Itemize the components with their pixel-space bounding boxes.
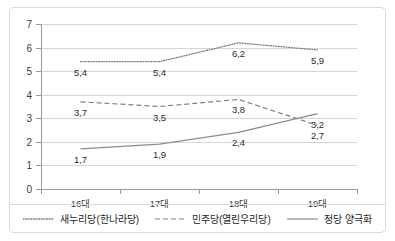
legend-item[interactable]: 정당 양극화 xyxy=(287,211,372,226)
y-axis-tick-label: 6 xyxy=(18,42,32,53)
y-axis-tick-label: 5 xyxy=(18,66,32,77)
y-axis-tick-label: 4 xyxy=(18,89,32,100)
data-point-label: 6,2 xyxy=(232,48,245,59)
legend-swatch-solid-icon xyxy=(287,215,318,223)
series-line xyxy=(81,43,318,62)
data-point-label: 3,2 xyxy=(311,119,324,130)
series-line xyxy=(81,114,318,149)
y-axis-tick-label: 7 xyxy=(18,19,32,30)
chart-container: 76543210 16대17대18대19대 5,45,46,25,93,73,5… xyxy=(0,0,395,241)
data-point-label: 2,7 xyxy=(311,130,324,141)
y-axis-tick-label: 3 xyxy=(18,113,32,124)
legend-label: 새누리당(한나라당) xyxy=(60,211,139,226)
series-lines xyxy=(41,24,357,190)
data-point-label: 1,9 xyxy=(153,149,166,160)
data-point-label: 3,8 xyxy=(232,104,245,115)
y-axis-tick-label: 2 xyxy=(18,136,32,147)
legend-label: 정당 양극화 xyxy=(324,211,372,226)
y-axis-tick-label: 0 xyxy=(18,184,32,195)
data-point-label: 3,5 xyxy=(153,112,166,123)
data-point-label: 2,4 xyxy=(232,137,245,148)
legend-swatch-dashed-icon xyxy=(155,215,186,223)
data-point-label: 5,4 xyxy=(74,67,87,78)
data-point-label: 5,9 xyxy=(311,55,324,66)
data-point-label: 1,7 xyxy=(74,154,87,165)
legend-swatch-dotted-icon xyxy=(23,215,54,223)
legend-item[interactable]: 새누리당(한나라당) xyxy=(23,211,139,226)
x-axis-tick xyxy=(357,189,358,194)
legend-label: 민주당(열린우리당) xyxy=(192,211,271,226)
y-axis-tick-label: 1 xyxy=(18,160,32,171)
data-point-label: 3,7 xyxy=(74,107,87,118)
chart-legend: 새누리당(한나라당)민주당(열린우리당)정당 양극화 xyxy=(10,205,385,232)
legend-item[interactable]: 민주당(열린우리당) xyxy=(155,211,271,226)
data-point-label: 5,4 xyxy=(153,67,166,78)
